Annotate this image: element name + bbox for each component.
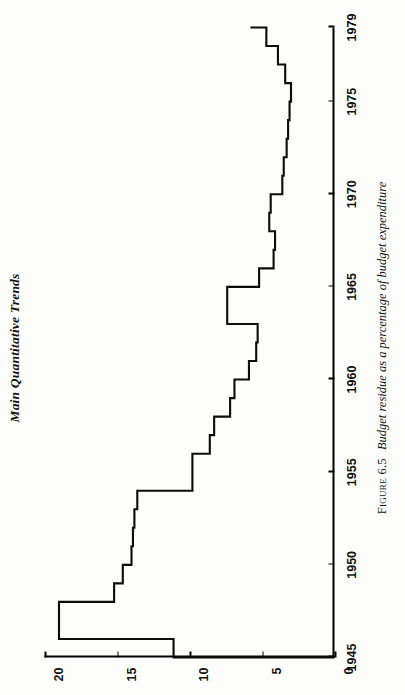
scanned-page: Main Quantitative Trends 194519501955196… xyxy=(0,0,405,695)
x-tick-label-1965: 1965 xyxy=(344,273,358,301)
figure-number: Figure 6.5 xyxy=(374,458,388,514)
y-tick-label-15: 15 xyxy=(124,667,138,681)
figure-caption-text: Budget residue as a percentage of budget… xyxy=(374,181,388,449)
x-tick-label-1979: 1979 xyxy=(344,13,358,41)
x-tick-label-1950: 1950 xyxy=(344,550,358,578)
x-tick-label-1975: 1975 xyxy=(344,87,358,115)
y-tick-label-0: 0 xyxy=(341,667,355,674)
x-tick-label-1955: 1955 xyxy=(344,458,358,486)
y-tick-label-5: 5 xyxy=(269,667,283,674)
data-series-line xyxy=(44,27,334,657)
page-content: Main Quantitative Trends 194519501955196… xyxy=(0,0,405,695)
figure-caption: Figure 6.5Budget residue as a percentage… xyxy=(374,0,389,695)
chart-plot-area: 19451950195519601965197019751979 0510152… xyxy=(44,27,334,657)
y-tick-label-10: 10 xyxy=(196,667,210,681)
x-tick-label-1970: 1970 xyxy=(344,180,358,208)
x-tick-label-1960: 1960 xyxy=(344,365,358,393)
running-head: Main Quantitative Trends xyxy=(6,0,22,695)
y-tick-label-20: 20 xyxy=(51,667,65,681)
